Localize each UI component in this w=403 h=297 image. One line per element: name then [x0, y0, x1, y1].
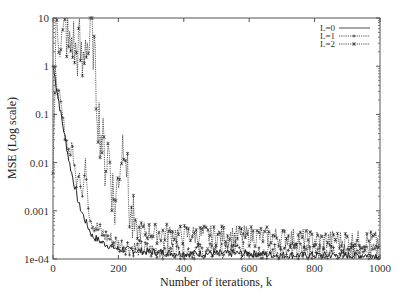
plot-frame — [53, 18, 380, 259]
x-tick-label: 800 — [306, 262, 323, 274]
x-tick-label: 1000 — [369, 262, 392, 274]
mse-chart: 02004006008001000 1e-040.0010.010.1110 N… — [0, 0, 403, 297]
y-tick-label: 0.1 — [35, 108, 49, 120]
y-tick-label: 1e-04 — [24, 253, 50, 265]
y-axis-label: MSE (Log scale) — [5, 97, 19, 179]
series-layer — [52, 16, 381, 260]
x-axis-label: Number of iterations, k — [160, 275, 272, 289]
x-tick-label: 400 — [176, 262, 193, 274]
series-0 — [53, 66, 380, 259]
x-tick-label: 600 — [241, 262, 258, 274]
series-2 — [53, 18, 380, 251]
y-tick-label: 0.01 — [30, 157, 49, 169]
legend: L=0L=1L=2 — [320, 23, 370, 49]
series-1 — [53, 66, 380, 259]
y-tick-label: 0.001 — [24, 205, 49, 217]
x-tick-label: 0 — [50, 262, 56, 274]
y-tick-label: 1 — [44, 60, 50, 72]
legend-label: L=2 — [320, 39, 335, 49]
y-tick-label: 10 — [38, 12, 50, 24]
x-tick-label: 200 — [110, 262, 127, 274]
